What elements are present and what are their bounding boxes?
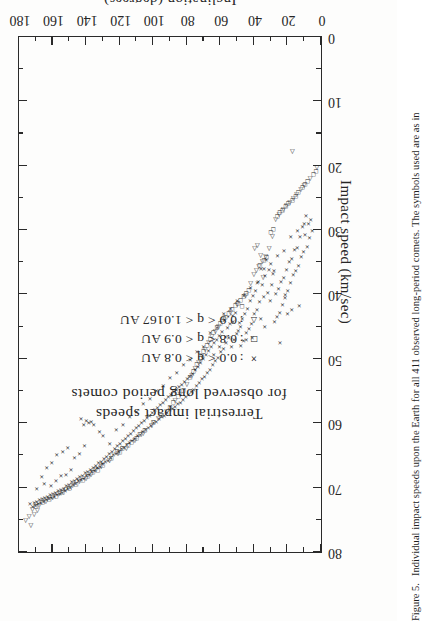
axis-tick: [85, 544, 86, 552]
scatter-plot-area: ××××××××××××××××××××××××××××××××××××××××…: [19, 37, 321, 552]
axis-tick: [313, 165, 321, 166]
axis-tick: [19, 454, 24, 455]
caption-rotated-container: Figure 5. Individual impact speeds upon …: [395, 0, 426, 621]
axis-tick: [68, 548, 69, 553]
data-point: ×: [289, 307, 294, 313]
axis-tick: [19, 519, 24, 520]
data-point: ×: [297, 303, 302, 309]
y-tick-label: 70: [328, 481, 350, 497]
axis-tick: [317, 197, 322, 198]
x-tick-label: 20: [281, 12, 295, 28]
legend-separator: :: [237, 349, 246, 368]
axis-tick: [313, 358, 321, 359]
axis-tick: [19, 487, 27, 488]
data-point: △: [273, 217, 278, 223]
legend-marker-icon: △: [246, 311, 262, 330]
axis-tick: [286, 37, 287, 45]
caption-text: Individual impact speeds upon the Earth …: [410, 112, 421, 576]
data-point: ×: [60, 449, 65, 455]
data-point: ×: [287, 259, 292, 265]
x-tick-label: 120: [110, 12, 131, 28]
data-point: ×: [262, 324, 267, 330]
data-point: ×: [65, 445, 70, 451]
axis-tick: [68, 37, 69, 42]
axis-tick: [313, 36, 321, 37]
data-point: △: [258, 253, 263, 259]
axis-tick: [19, 165, 27, 166]
data-point: △: [84, 476, 89, 482]
data-point: △: [94, 467, 99, 473]
legend: ×:0.0 < q < 0.8 AU□:0.8 < q < 0.9 AU△:0.…: [120, 311, 262, 368]
x-tick-label: 160: [43, 12, 64, 28]
axis-tick: [253, 544, 254, 552]
data-point: △: [314, 165, 319, 171]
data-point: ×: [291, 272, 296, 278]
data-point: ×: [282, 248, 287, 254]
x-tick-label: 140: [77, 12, 98, 28]
data-point: △: [189, 373, 194, 379]
y-axis-title: Impact speed (km/sec): [337, 180, 354, 324]
data-point: □: [240, 304, 245, 310]
data-point: ×: [307, 235, 312, 241]
data-point: △: [64, 487, 69, 493]
legend-separator: :: [237, 311, 246, 330]
axis-tick: [317, 68, 322, 69]
data-point: △: [124, 446, 129, 452]
figure-caption: Figure 5. Individual impact speeds upon …: [395, 0, 426, 621]
axis-tick: [19, 229, 27, 230]
legend-item-1: ×:0.0 < q < 0.8 AU: [120, 349, 262, 368]
axis-tick: [19, 326, 24, 327]
data-point: ×: [288, 280, 293, 286]
x-tick-label: 180: [10, 12, 31, 28]
axis-tick: [19, 293, 27, 294]
axis-tick: [19, 100, 27, 101]
plot-title: Terrestrial impact speeds for observed l…: [54, 384, 304, 424]
legend-label: 0.0 < q < 0.8 AU: [141, 349, 237, 368]
axis-tick: [51, 37, 52, 45]
axis-tick: [102, 37, 103, 42]
axis-tick: [119, 544, 120, 552]
data-point: ×: [279, 279, 284, 285]
plot-title-line-2: for observed long period comets: [54, 384, 304, 404]
axis-tick: [119, 37, 120, 45]
data-point: ×: [288, 234, 293, 240]
plot-title-line-1: Terrestrial impact speeds: [54, 404, 304, 424]
legend-separator: :: [237, 330, 246, 349]
data-point: △: [28, 523, 33, 529]
axis-tick: [313, 229, 321, 230]
data-point: ×: [63, 472, 68, 478]
data-point: ×: [255, 280, 260, 286]
data-point: ×: [82, 443, 87, 449]
axis-tick: [152, 544, 153, 552]
axis-tick: [313, 100, 321, 101]
axis-tick: [186, 37, 187, 45]
data-point: ×: [295, 228, 300, 234]
x-tick-label: 0: [319, 12, 326, 28]
data-point: △: [252, 246, 257, 252]
axis-tick: [317, 261, 322, 262]
data-point: ×: [269, 282, 274, 288]
data-point: △: [43, 499, 48, 505]
axis-tick: [135, 37, 136, 42]
legend-marker-icon: □: [246, 330, 262, 349]
plot-frame: ××××××××××××××××××××××××××××××××××××××××…: [18, 36, 322, 553]
legend-item-3: △:0.9 < q < 1.0167 AU: [120, 311, 262, 330]
axis-tick: [135, 548, 136, 553]
axis-tick: [219, 37, 220, 45]
x-tick-label: 100: [144, 12, 165, 28]
y-tick-label: 60: [328, 416, 350, 432]
data-point: ×: [272, 319, 277, 325]
axis-tick: [19, 422, 27, 423]
axis-tick: [270, 548, 271, 553]
axis-tick: [236, 548, 237, 553]
axis-tick: [313, 293, 321, 294]
data-point: ×: [34, 486, 39, 492]
axis-tick: [19, 132, 24, 133]
data-point: ×: [273, 292, 278, 298]
axis-tick: [202, 548, 203, 553]
data-point: ×: [42, 481, 47, 487]
axis-tick: [317, 132, 322, 133]
data-point: △: [57, 491, 62, 497]
axis-tick: [18, 37, 19, 45]
